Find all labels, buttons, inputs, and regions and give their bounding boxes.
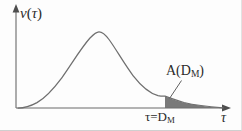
annotation-leader-line (170, 81, 182, 99)
y-axis-label-symbol: ν (20, 5, 27, 21)
y-axis-label: ν(τ) (20, 6, 42, 21)
y-axis (13, 4, 20, 108)
shaded-tail-area (165, 96, 223, 108)
area-annotation-suffix: ) (199, 63, 204, 78)
threshold-tick-label: τ=DM (145, 110, 175, 125)
threshold-tick-subscript: M (167, 115, 175, 125)
figure-container: ν(τ) τ A(DM) τ=DM (0, 0, 242, 131)
x-axis-label: τ (221, 111, 226, 125)
y-axis-arrowhead (13, 4, 20, 13)
area-annotation-label: A(DM) (166, 64, 204, 80)
area-annotation-prefix: A(D (166, 63, 191, 78)
threshold-tick-prefix: τ=D (145, 109, 167, 124)
y-axis-label-close-paren: ) (37, 5, 42, 21)
